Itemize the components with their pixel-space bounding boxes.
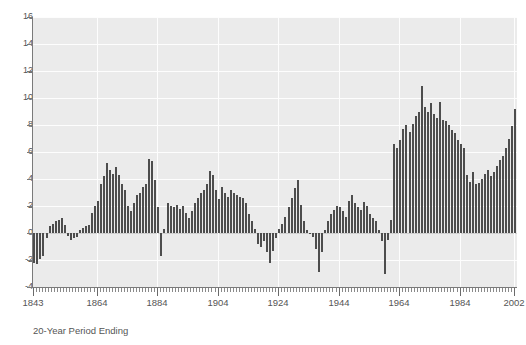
x-tick-major [278,288,279,296]
x-tick-minor [469,288,470,292]
bar [354,203,356,233]
x-tick-minor [326,288,327,292]
x-tick-minor [199,288,200,292]
x-tick-minor [438,288,439,292]
bar [94,206,96,233]
x-tick-minor [151,288,152,292]
bar [418,112,420,234]
x-tick-minor [496,288,497,292]
x-tick-label: 1843 [13,297,53,308]
bar [281,224,283,233]
bar [348,201,350,233]
bar [260,233,262,247]
x-tick-minor [450,288,451,292]
bar [127,206,129,233]
bar [427,112,429,234]
bar [233,193,235,234]
bar [227,197,229,233]
bar [487,170,489,233]
x-tick-minor [372,288,373,292]
x-tick-minor [78,288,79,292]
bar [336,206,338,233]
x-tick-minor [393,288,394,292]
bar [176,205,178,233]
x-tick-minor [63,288,64,292]
chart-container: 1614121086420-2-4 20-Year Period Ending … [0,0,526,345]
y-tick-mark [27,152,33,153]
x-tick-minor [133,288,134,292]
x-tick-minor [233,288,234,292]
bar [327,221,329,233]
y-tick-mark [27,179,33,180]
x-tick-minor [202,288,203,292]
x-tick-major [157,288,158,296]
x-tick-minor [208,288,209,292]
bar [82,228,84,233]
bar [266,233,268,252]
x-tick-minor [94,288,95,292]
x-tick-minor [363,288,364,292]
x-tick-minor [390,288,391,292]
x-tick-minor [45,288,46,292]
x-tick-minor [139,288,140,292]
x-tick-major [460,288,461,296]
bar [508,139,510,234]
x-tick-minor [499,288,500,292]
x-tick-minor [348,288,349,292]
bar [242,198,244,233]
bar [333,210,335,233]
bar [442,120,444,233]
x-tick-minor [106,288,107,292]
bar [463,148,465,233]
x-tick-minor [357,288,358,292]
x-tick-minor [136,288,137,292]
bar [278,229,280,233]
bar [179,209,181,233]
x-tick-minor [429,288,430,292]
bar [148,159,150,233]
x-tick-minor [426,288,427,292]
bar [436,118,438,233]
x-tick-minor [305,288,306,292]
x-tick-minor [311,288,312,292]
bar [91,213,93,233]
bar [85,226,87,233]
gridline-horizontal [33,44,517,45]
bar [46,233,48,238]
bar [454,133,456,233]
bar [309,233,311,234]
x-tick-minor [166,288,167,292]
bar [511,126,513,233]
bar [469,182,471,233]
x-tick-minor [296,288,297,292]
bar [167,203,169,233]
x-tick-minor [408,288,409,292]
x-tick-minor [281,288,282,292]
x-tick-minor [184,288,185,292]
x-tick-minor [432,288,433,292]
bar [324,230,326,233]
x-tick-minor [196,288,197,292]
x-tick-label: 2002 [494,297,526,308]
bar [387,233,389,240]
bar [405,125,407,233]
bar [424,107,426,233]
bar [306,230,308,233]
gridline-horizontal [33,71,517,72]
y-tick-mark [27,260,33,261]
x-tick-minor [478,288,479,292]
x-tick-minor [54,288,55,292]
x-tick-minor [266,288,267,292]
bar [142,187,144,233]
gridline-vertical [157,17,158,287]
bar [103,176,105,233]
bar [375,221,377,233]
bar [130,211,132,233]
bar [366,206,368,233]
bar [136,195,138,233]
x-tick-major [97,288,98,296]
x-tick-minor [314,288,315,292]
bar [339,207,341,233]
x-tick-minor [299,288,300,292]
x-tick-minor [109,288,110,292]
